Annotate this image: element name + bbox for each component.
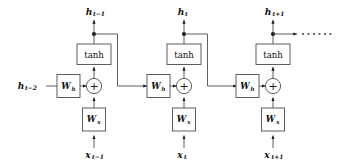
output-state-sub-2: t [185, 10, 188, 17]
rnn-unrolled-diagram: tanh + W h W x h t−1 x t−1 tan [0, 0, 340, 165]
input-hidden-state-sub: t−2 [25, 84, 37, 91]
input-label-1: x [84, 150, 91, 160]
output-state-label-2: h [178, 7, 185, 17]
weight-x-label-3: W [266, 114, 277, 124]
cell-t-minus-1: tanh + W h W x h t−1 x t−1 [46, 7, 147, 161]
sum-operator-label-2: + [179, 80, 188, 93]
input-label-3: x [263, 150, 270, 160]
input-sub-2: t [184, 153, 187, 160]
tanh-label-1: tanh [84, 50, 104, 60]
weight-x-sub-1: x [96, 119, 101, 125]
output-state-sub-3: t+1 [273, 10, 285, 17]
input-sub-1: t−1 [92, 153, 104, 160]
input-hidden-state-group: h t−2 [18, 81, 37, 92]
weight-x-sub-2: x [186, 119, 191, 125]
ellipsis-icon [302, 33, 332, 35]
tanh-label-3: tanh [263, 50, 283, 60]
weight-h-sub-2: h [162, 86, 166, 92]
cell-t-plus-1: tanh + W h W x h t+1 x t+1 [236, 7, 297, 161]
weight-x-label-1: W [87, 114, 98, 124]
sum-operator-label-1: + [89, 80, 98, 93]
input-label-2: x [176, 150, 183, 160]
diagram-canvas: tanh + W h W x h t−1 x t−1 tan [0, 0, 340, 165]
weight-x-label-2: W [177, 114, 188, 124]
sum-operator-label-3: + [268, 80, 277, 93]
weight-h-sub-1: h [72, 86, 76, 92]
input-sub-3: t+1 [272, 153, 284, 160]
output-state-label-1: h [86, 7, 93, 17]
output-state-sub-1: t−1 [93, 10, 105, 17]
tanh-label-2: tanh [174, 50, 194, 60]
input-hidden-state-label: h [18, 81, 25, 91]
weight-h-sub-3: h [251, 86, 255, 92]
weight-x-sub-3: x [275, 119, 280, 125]
output-state-label-3: h [265, 7, 272, 17]
cell-t: tanh + W h W x h t x t [147, 7, 237, 161]
